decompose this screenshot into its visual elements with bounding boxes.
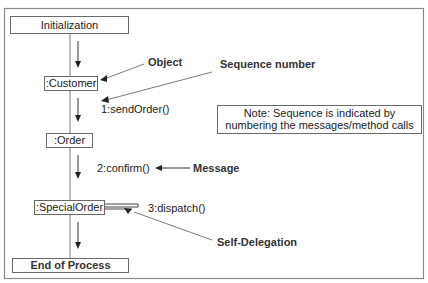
node-special-order: :SpecialOrder — [35, 201, 105, 215]
note-line-2: numbering the messages/method calls — [225, 119, 414, 131]
node-initialization-label: Initialization — [41, 19, 98, 31]
note-box: Note: Sequence is indicated by numbering… — [218, 106, 422, 134]
annotation-sequence-number: Sequence number — [220, 58, 316, 70]
annotation-object: Object — [148, 56, 183, 68]
message-2: 2:confirm() — [97, 162, 150, 174]
message-3: 3:dispatch() — [148, 202, 205, 214]
node-customer: :Customer — [45, 77, 98, 91]
node-initialization: Initialization — [11, 17, 129, 34]
note-line-1: Note: Sequence is indicated by — [244, 107, 396, 119]
node-special-order-label: :SpecialOrder — [36, 201, 104, 213]
node-order-label: :Order — [54, 134, 86, 146]
annotation-self-delegation: Self-Delegation — [217, 236, 297, 248]
node-end-label: End of Process — [30, 259, 110, 271]
node-end-of-process: End of Process — [13, 259, 129, 273]
node-order: :Order — [47, 134, 93, 148]
collaboration-diagram: Initialization :Customer Object Sequence… — [0, 0, 428, 283]
node-customer-label: :Customer — [46, 77, 97, 89]
annotation-message: Message — [193, 162, 239, 174]
message-1: 1:sendOrder() — [101, 103, 169, 115]
